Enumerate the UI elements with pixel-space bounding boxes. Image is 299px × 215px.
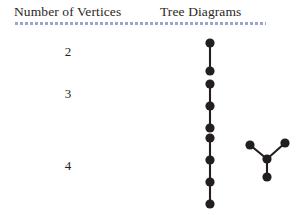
column-header-tree-diagrams: Tree Diagrams xyxy=(160,4,241,20)
tree-diagram-path-4-vertices xyxy=(190,131,230,211)
tree-diagrams-table: Number of Vertices Tree Diagrams 2 3 4 xyxy=(0,0,299,215)
tree-diagram-path-3-vertices xyxy=(190,76,230,136)
row-label-vertices-2: 2 xyxy=(48,44,88,60)
header-dotted-rule xyxy=(14,22,266,25)
tree-diagram-path-2-vertices xyxy=(190,34,230,80)
column-header-number-of-vertices: Number of Vertices xyxy=(14,4,121,20)
tree-diagram-star-4-vertices xyxy=(238,131,298,187)
row-label-vertices-3: 3 xyxy=(48,86,88,102)
row-label-vertices-4: 4 xyxy=(48,158,88,174)
